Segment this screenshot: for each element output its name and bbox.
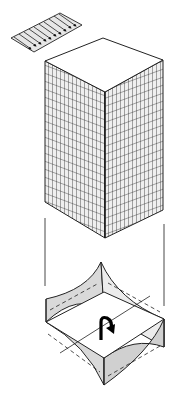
tower	[45, 38, 163, 238]
diagram-canvas	[0, 0, 175, 397]
wind-load-panel	[11, 13, 82, 52]
twisted-plan	[40, 262, 164, 385]
